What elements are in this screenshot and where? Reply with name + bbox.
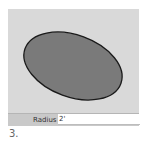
drawing-canvas[interactable] (8, 9, 139, 113)
measurements-box: Radius (8, 113, 139, 126)
step-number: 3. (9, 128, 19, 140)
radius-input[interactable] (58, 114, 140, 125)
measurements-label: Radius (33, 115, 56, 125)
ellipse-shape[interactable] (8, 9, 139, 113)
